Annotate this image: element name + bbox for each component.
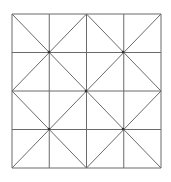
intersection-node bbox=[48, 51, 51, 54]
intersection-node bbox=[122, 128, 125, 131]
intersection-node bbox=[48, 128, 51, 131]
intersection-node bbox=[122, 51, 125, 54]
intersection-node bbox=[85, 90, 88, 93]
grid-diagram bbox=[0, 0, 171, 182]
